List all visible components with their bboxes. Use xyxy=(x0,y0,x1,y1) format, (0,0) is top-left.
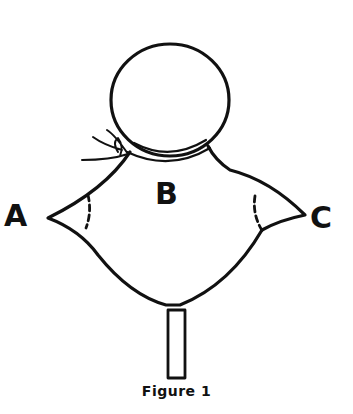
label-c: C xyxy=(310,200,332,235)
ribbon-tie xyxy=(82,130,128,160)
figure-caption: Figure 1 xyxy=(0,383,353,399)
left-dashed-fold xyxy=(86,195,90,228)
stick-handle xyxy=(168,310,185,378)
head-circle xyxy=(111,44,229,156)
label-b: B xyxy=(155,176,178,211)
label-a: A xyxy=(4,198,28,233)
figure-diagram: A B C xyxy=(0,0,353,414)
right-dashed-fold xyxy=(254,196,263,232)
